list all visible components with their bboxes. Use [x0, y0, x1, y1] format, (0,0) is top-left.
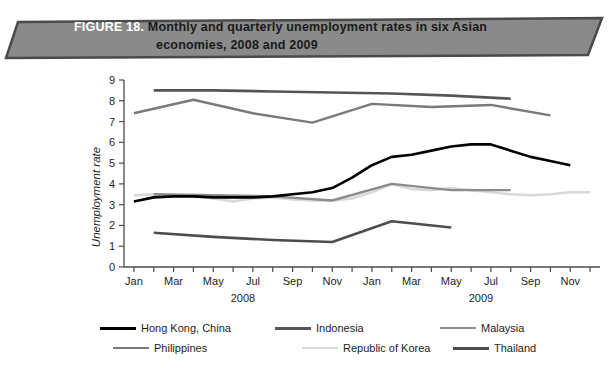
x-axis-year-label: 2008 [231, 292, 255, 304]
banner-shape [0, 8, 614, 62]
x-tick-label: Jul [246, 275, 260, 287]
y-tick-label: 9 [109, 74, 115, 86]
legend-swatch-republic-of-korea [302, 347, 338, 349]
y-tick-label: 6 [109, 136, 115, 148]
banner-parallelogram [6, 18, 602, 58]
x-tick-label: May [441, 275, 462, 287]
y-axis-title: Unemployment rate [90, 147, 102, 247]
legend-swatch-malaysia [440, 327, 476, 329]
series-line-thailand [154, 221, 452, 242]
x-tick-label: Jul [484, 275, 498, 287]
series-line-indonesia [154, 90, 511, 98]
y-axis-title-text: Unemployment rate [90, 147, 102, 247]
legend-label-malaysia: Malaysia [481, 322, 524, 334]
legend-swatch-indonesia [275, 327, 311, 330]
x-axis-ticks: JanMarMayJulSepNovJanMarMayJulSepNov [125, 267, 590, 287]
x-tick-label: Sep [521, 275, 541, 287]
y-tick-label: 1 [109, 240, 115, 252]
series-line-philippines [134, 100, 551, 123]
legend-swatch-thailand [453, 347, 489, 350]
legend-item-hong-kong-china: Hong Kong, China [100, 318, 275, 338]
legend-row-1: Hong Kong, China Indonesia Malaysia [100, 318, 600, 338]
legend-swatch-philippines [113, 347, 149, 349]
legend-item-indonesia: Indonesia [275, 318, 440, 338]
x-tick-label: Jan [125, 275, 143, 287]
chart-container: Unemployment rate 0123456789 JanMarMayJu… [0, 62, 614, 307]
x-tick-label: Nov [322, 275, 342, 287]
data-series-group [134, 90, 590, 242]
y-tick-label: 2 [109, 219, 115, 231]
chart-legend: Hong Kong, China Indonesia Malaysia Phil… [100, 318, 600, 362]
x-tick-label: Jan [363, 275, 381, 287]
x-tick-label: Sep [283, 275, 303, 287]
legend-item-republic-of-korea: Republic of Korea [275, 338, 440, 358]
y-tick-label: 5 [109, 157, 115, 169]
legend-item-philippines: Philippines [100, 338, 275, 358]
legend-label-thailand: Thailand [494, 342, 536, 354]
y-tick-label: 8 [109, 95, 115, 107]
legend-item-malaysia: Malaysia [440, 318, 590, 338]
x-tick-label: Nov [560, 275, 580, 287]
x-axis-group-labels: 20082009 [231, 292, 493, 304]
figure-title-banner: FIGURE 18. Monthly and quarterly unemplo… [0, 8, 614, 62]
x-tick-label: May [203, 275, 224, 287]
legend-label-republic-of-korea: Republic of Korea [343, 342, 430, 354]
x-tick-label: Mar [402, 275, 421, 287]
y-tick-label: 7 [109, 116, 115, 128]
legend-label-hong-kong-china: Hong Kong, China [141, 322, 231, 334]
legend-label-philippines: Philippines [154, 342, 207, 354]
x-tick-label: Mar [164, 275, 183, 287]
y-tick-label: 3 [109, 199, 115, 211]
legend-swatch-hong-kong-china [100, 327, 136, 330]
x-axis-year-label: 2009 [469, 292, 493, 304]
y-tick-label: 4 [109, 178, 115, 190]
legend-label-indonesia: Indonesia [316, 322, 364, 334]
legend-item-thailand: Thailand [440, 338, 590, 358]
line-chart: Unemployment rate 0123456789 JanMarMayJu… [0, 62, 614, 307]
y-axis-ticks: 0123456789 [109, 74, 124, 273]
y-tick-label: 0 [109, 261, 115, 273]
legend-row-2: Philippines Republic of Korea Thailand [100, 338, 600, 358]
